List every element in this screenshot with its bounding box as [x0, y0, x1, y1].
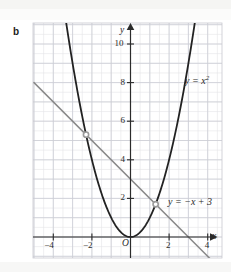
y-tick-label: 2 — [121, 192, 126, 202]
y-tick-label: 4 — [121, 154, 126, 164]
x-tick-label: 4 — [205, 240, 210, 250]
y-axis-label: y — [120, 25, 124, 35]
line-equation-label: y = −x + 3 — [168, 196, 212, 207]
y-tick-label: 6 — [121, 115, 126, 125]
parabola-equation-label: y = x2 — [185, 74, 209, 86]
x-tick-label: −2 — [83, 240, 93, 250]
y-tick-label: 8 — [121, 77, 126, 87]
y-tick-label: 10 — [115, 38, 124, 48]
figure-page: b — [0, 0, 231, 272]
x-tick-label: 2 — [166, 240, 171, 250]
origin-label: O — [122, 238, 129, 248]
x-tick-label: −4 — [44, 240, 54, 250]
parabola-equation-text: y = x — [185, 75, 206, 86]
parabola-equation-exponent: 2 — [206, 74, 210, 82]
x-axis-label: x — [212, 231, 216, 241]
